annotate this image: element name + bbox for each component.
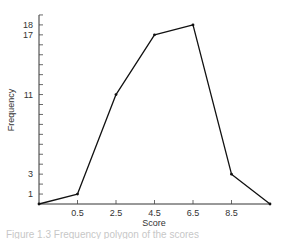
x-tick-label: 8.5: [225, 208, 238, 218]
y-tick-label: 18: [23, 20, 33, 30]
data-point-marker: [230, 173, 233, 176]
data-point-marker: [38, 203, 41, 206]
y-tick-label: 3: [28, 169, 33, 179]
frequency-line-series: [38, 24, 272, 206]
y-axis: 13111718: [23, 15, 43, 204]
y-tick-label: 17: [23, 30, 33, 40]
x-axis-title: Score: [142, 218, 166, 228]
data-point-marker: [269, 203, 272, 206]
figure-caption: Figure 1.3 Frequency polygon of the scor…: [6, 229, 199, 239]
data-point-marker: [115, 93, 118, 96]
y-tick-label: 11: [24, 90, 33, 100]
x-tick-label: 2.5: [110, 208, 123, 218]
frequency-polygon-chart: 13111718 0.52.54.56.58.5 Frequency Score: [0, 0, 281, 239]
frequency-line: [39, 25, 270, 204]
data-point-marker: [192, 24, 195, 27]
x-tick-label: 4.5: [148, 208, 161, 218]
x-axis: 0.52.54.56.58.5: [39, 200, 270, 218]
y-tick-label: 1: [28, 189, 33, 199]
y-axis-title: Frequency: [6, 88, 16, 131]
x-tick-label: 6.5: [187, 208, 200, 218]
x-tick-label: 0.5: [71, 208, 84, 218]
data-point-marker: [153, 33, 156, 36]
data-point-marker: [76, 193, 79, 196]
